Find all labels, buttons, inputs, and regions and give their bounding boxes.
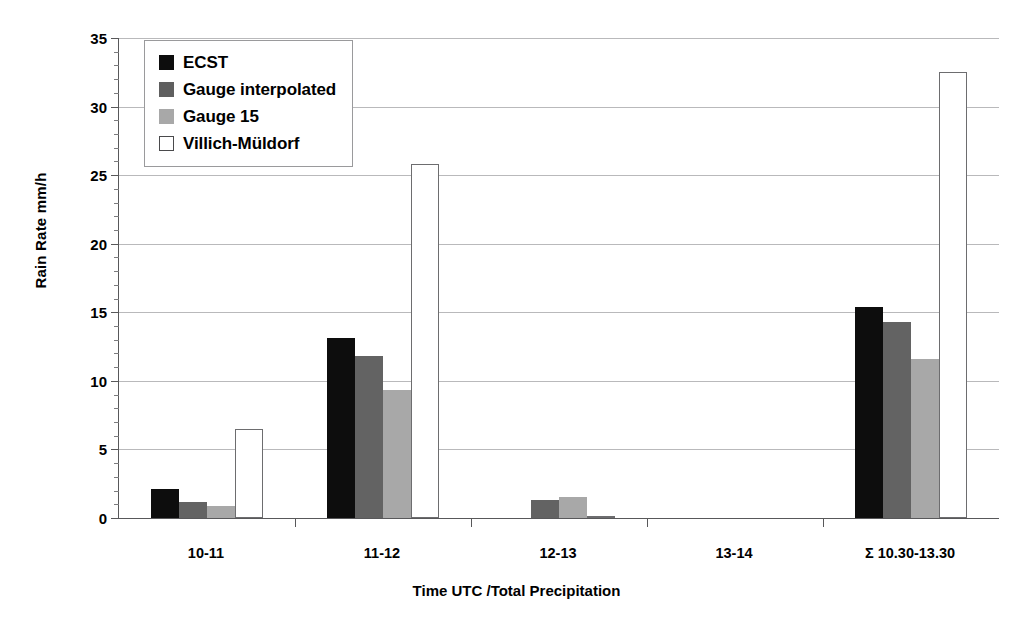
bar — [855, 307, 883, 518]
bar — [179, 502, 207, 518]
y-tick-label: 25 — [90, 167, 107, 184]
bar — [151, 489, 179, 518]
legend-label: Gauge interpolated — [183, 80, 336, 100]
bar-group — [823, 38, 999, 518]
bar — [411, 164, 439, 518]
y-tick-major — [111, 107, 119, 108]
x-tick-label: 10-11 — [188, 545, 224, 561]
y-tick-label: 30 — [90, 98, 107, 115]
y-tick-major — [111, 38, 119, 39]
bar-chart: Rain Rate mm/h 05101520253035 10-1111-12… — [0, 0, 1033, 620]
y-tick-major — [111, 449, 119, 450]
category-separator — [823, 518, 824, 527]
legend-item: Gauge interpolated — [159, 76, 336, 103]
category-separator — [471, 518, 472, 527]
bar — [559, 497, 587, 518]
y-tick-major — [111, 312, 119, 313]
bar — [939, 72, 967, 518]
bar — [883, 322, 911, 518]
bar — [355, 356, 383, 518]
legend-item: Gauge 15 — [159, 103, 336, 130]
y-tick-label: 20 — [90, 235, 107, 252]
x-axis-title: Time UTC /Total Precipitation — [0, 582, 1033, 599]
y-tick-major — [111, 175, 119, 176]
y-tick-major — [111, 244, 119, 245]
bar — [911, 359, 939, 518]
y-tick-major — [111, 518, 119, 519]
legend-swatch-icon — [159, 82, 174, 97]
bar-group — [647, 38, 823, 518]
legend-swatch-icon — [159, 109, 174, 124]
bar — [383, 390, 411, 518]
legend-item: ECST — [159, 49, 336, 76]
x-tick-label: 13-14 — [715, 545, 752, 561]
y-tick-label: 35 — [90, 30, 107, 47]
bar-group — [471, 38, 647, 518]
legend-label: ECST — [183, 53, 228, 73]
category-separator — [647, 518, 648, 527]
legend: ECSTGauge interpolatedGauge 15Villich-Mü… — [144, 40, 353, 167]
category-separator — [295, 518, 296, 527]
x-tick-label: Σ 10.30-13.30 — [865, 545, 955, 561]
bar — [531, 500, 559, 518]
y-axis-title: Rain Rate mm/h — [32, 121, 49, 341]
x-tick-label: 12-13 — [539, 545, 576, 561]
legend-swatch-icon — [159, 55, 174, 70]
legend-item: Villich-Müldorf — [159, 130, 336, 157]
y-tick-label: 15 — [90, 304, 107, 321]
bar — [587, 516, 615, 518]
legend-swatch-icon — [159, 136, 174, 151]
y-tick-major — [111, 381, 119, 382]
bar — [207, 506, 235, 518]
bar — [327, 338, 355, 518]
bar — [235, 429, 263, 518]
x-tick-label: 11-12 — [364, 545, 400, 561]
y-tick-label: 5 — [99, 441, 107, 458]
y-tick-label: 10 — [90, 372, 107, 389]
y-tick-label: 0 — [99, 510, 107, 527]
legend-label: Gauge 15 — [183, 107, 259, 127]
legend-label: Villich-Müldorf — [183, 134, 299, 154]
